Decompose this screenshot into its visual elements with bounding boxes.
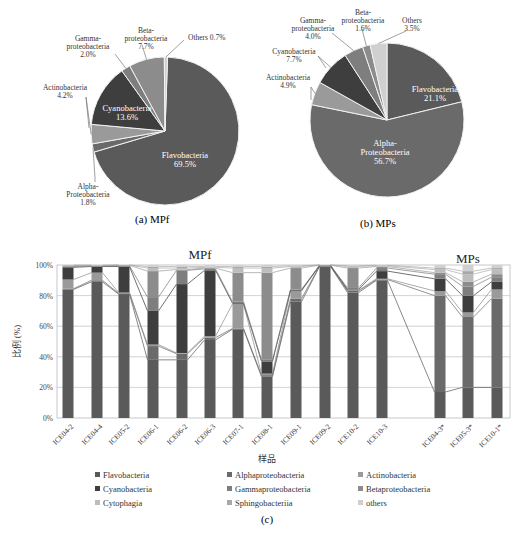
bar-segment-actinobacteria <box>119 293 130 294</box>
bar-segment-cyanobacteria <box>148 311 159 345</box>
bar-segment-actinobacteria <box>463 312 474 317</box>
bar-segment-sphingobacteriia <box>148 267 159 269</box>
bar-segment-cyanobacteria <box>119 267 130 293</box>
bar-segment-others <box>435 265 446 268</box>
bar-segment-others <box>492 265 503 268</box>
legend-label: Gammaproteobacteria <box>235 484 311 494</box>
caption-b: (b) MPs <box>360 217 396 230</box>
bar-segment-gammaproteobacteria <box>435 274 446 279</box>
slice-label: 1.6% <box>355 24 371 33</box>
bar-segment-alphaproteobacteria <box>177 354 188 360</box>
bar-segment-flavobacteria <box>119 294 130 418</box>
bar-segment-gammaproteobacteria <box>463 286 474 295</box>
bar-segment-gammaproteobacteria <box>377 268 388 271</box>
bar-segment-actinobacteria <box>92 273 103 281</box>
bar-segment-others <box>291 265 302 266</box>
bar-segment-betaproteobacteria <box>205 268 216 269</box>
y-tick-label: 20% <box>39 383 53 392</box>
bar-segment-gammaproteobacteria <box>262 360 273 362</box>
slice-label: 21.1% <box>424 93 446 103</box>
bar-segment-betaproteobacteria <box>63 266 74 267</box>
x-tick-label: ICE09-2 <box>308 422 333 447</box>
bar-segment-gammaproteobacteria <box>63 267 74 268</box>
bar-segment-actinobacteria <box>233 304 244 328</box>
slice-label: 4.0% <box>305 32 321 41</box>
bar-segment-flavobacteria <box>92 282 103 418</box>
legend-label: Cyanobacteria <box>103 484 152 494</box>
bar-segment-betaproteobacteria <box>435 273 446 275</box>
bar-segment-flavobacteria <box>177 360 188 418</box>
y-tick-label: 60% <box>39 322 53 331</box>
bar-segment-sphingobacteriia <box>291 266 302 267</box>
bar-segment-actinobacteria <box>205 336 216 338</box>
x-tick-label: ICE06-3 <box>193 422 218 447</box>
bar-segment-cytophagia <box>377 266 388 267</box>
bar-segment-others <box>205 265 216 267</box>
pie-chart-mps: Flavobacteria21.1%Alpha-Proteobacteria56… <box>266 8 464 197</box>
legend-label: Sphingobacteriia <box>235 498 293 508</box>
bar-segment-sphingobacteriia <box>177 267 188 269</box>
bar-segment-flavobacteria <box>148 360 159 418</box>
pie-chart-mpf: Flavobacteria69.5%Alpha-Proteobacteria1.… <box>43 26 239 207</box>
bar-segment-alphaproteobacteria <box>233 328 244 329</box>
legend-item-alphaproteobacteria: Alphaproteobacteria <box>227 470 305 480</box>
bar-segment-alphaproteobacteria <box>348 291 359 293</box>
legend-swatch <box>227 500 232 505</box>
legend-item-betaproteobacteria: Betaproteobacteria <box>358 484 430 494</box>
bar-segment-cyanobacteria <box>377 271 388 279</box>
bar-segment-cyanobacteria <box>233 303 244 304</box>
bar-segment-cytophagia <box>291 267 302 269</box>
bar-segment-others <box>348 265 359 266</box>
slice-label: 2.0% <box>80 50 96 59</box>
bar-segment-others <box>233 265 244 267</box>
bar-segment-others <box>148 265 159 267</box>
slice-label: 7.7% <box>138 42 154 51</box>
bar-segment-cyanobacteria <box>435 279 446 291</box>
slice-label: Others 0.7% <box>188 33 226 42</box>
legend-item-others: others <box>358 498 387 508</box>
slice-label: 4.2% <box>57 91 73 100</box>
bar-segment-cyanobacteria <box>92 267 103 273</box>
x-tick-label: ICE08-1 <box>250 422 275 447</box>
bar-segment-sphingobacteriia <box>262 267 273 269</box>
bar-segment-others <box>463 265 474 271</box>
legend-item-flavobacteria: Flavobacteria <box>95 470 149 480</box>
legend-label: Flavobacteria <box>103 470 149 480</box>
bar-segment-sphingobacteriia <box>492 268 503 270</box>
bar-segment-flavobacteria <box>233 329 244 418</box>
bar-segment-alphaproteobacteria <box>435 296 446 392</box>
bar-segment-actinobacteria <box>377 279 388 280</box>
legend-swatch <box>358 500 363 505</box>
bar-segment-sphingobacteriia <box>435 268 446 270</box>
bar-segment-cyanobacteria <box>262 361 273 373</box>
y-tick-label: 40% <box>39 353 53 362</box>
x-tick-label: ICE05-3* <box>448 422 475 449</box>
bar-segment-betaproteobacteria <box>148 271 159 297</box>
x-tick-label: ICE04-3* <box>420 422 447 449</box>
group-label-mps: MPs <box>456 251 480 266</box>
caption-a: (a) MPf <box>135 213 170 226</box>
bar-segment-alphaproteobacteria <box>205 338 216 340</box>
bar-segment-cytophagia <box>148 268 159 271</box>
legend-swatch <box>358 486 363 491</box>
caption-c: (c) <box>261 513 274 526</box>
bar-segment-cytophagia <box>492 270 503 275</box>
bar-segment-flavobacteria <box>463 387 474 418</box>
bar-segment-flavobacteria <box>291 302 302 418</box>
slice-label: 4.9% <box>280 81 296 90</box>
bar-segment-actinobacteria <box>177 353 188 354</box>
bar-segment-betaproteobacteria <box>348 268 359 288</box>
bar-segment-cyanobacteria <box>205 270 216 336</box>
bar-segment-alphaproteobacteria <box>291 299 302 302</box>
x-tick-label: ICE10-1* <box>477 422 504 449</box>
legend: FlavobacteriaAlphaproteobacteriaActinoba… <box>95 470 430 508</box>
leader-line <box>166 40 184 57</box>
bar-segment-cytophagia <box>233 268 244 273</box>
bar-segment-actinobacteria <box>291 291 302 299</box>
y-tick-label: 100% <box>36 261 54 270</box>
bar-segment-actinobacteria <box>348 290 359 291</box>
bar-segment-betaproteobacteria <box>233 273 244 302</box>
x-tick-label: ICE06-1 <box>136 422 161 447</box>
legend-item-sphingobacteriia: Sphingobacteriia <box>227 498 293 508</box>
bar-segment-flavobacteria <box>435 392 446 418</box>
